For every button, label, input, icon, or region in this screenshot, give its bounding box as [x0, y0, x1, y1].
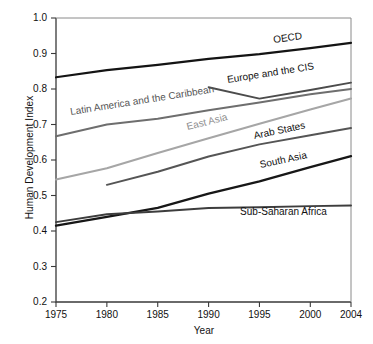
- x-tick-label: 1980: [85, 309, 129, 320]
- y-tick-label: 0.6: [17, 154, 47, 165]
- y-tick-label: 1.0: [17, 12, 47, 23]
- y-tick-label: 0.8: [17, 83, 47, 94]
- y-tick-label: 0.5: [17, 190, 47, 201]
- x-axis-title: Year: [56, 325, 352, 336]
- plot-area: [0, 0, 373, 344]
- series-line-europe-and-the-cis: [209, 83, 351, 99]
- y-tick-label: 0.9: [17, 48, 47, 59]
- x-tick-label: 1975: [34, 309, 78, 320]
- x-tick-label: 2000: [288, 309, 332, 320]
- y-tick-label: 0.2: [17, 296, 47, 307]
- x-tick-label: 2004: [329, 309, 373, 320]
- y-tick-label: 0.7: [17, 119, 47, 130]
- y-tick-label: 0.4: [17, 225, 47, 236]
- series-label-sub-saharan-africa: Sub-Saharan Africa: [240, 206, 327, 217]
- x-tick-label: 1995: [237, 309, 281, 320]
- chart-figure: Human Development Index Year 0.20.30.40.…: [0, 0, 373, 344]
- y-tick-label: 0.3: [17, 261, 47, 272]
- x-tick-label: 1985: [136, 309, 180, 320]
- series-line-latin-america-and-the-caribbean: [56, 89, 351, 136]
- x-tick-label: 1990: [187, 309, 231, 320]
